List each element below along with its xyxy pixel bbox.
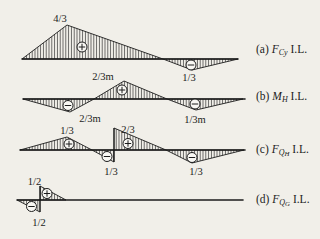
il-region-positive [22, 25, 163, 59]
caption-b-suffix: I.L. [288, 89, 307, 101]
caption-d-prefix: (d) [256, 193, 272, 205]
caption-d: (d) FQG I.L. [256, 193, 310, 208]
caption-b-prefix: (b) [256, 89, 272, 101]
caption-a: (a) FCy I.L. [256, 43, 307, 58]
il-region-negative [23, 99, 94, 112]
caption-a-symbol: F [272, 43, 279, 55]
caption-a-suffix: I.L. [288, 43, 307, 55]
il-region-negative [163, 59, 238, 70]
value-label: 1/3 [60, 125, 73, 136]
caption-b: (b) MH I.L. [256, 89, 307, 104]
caption-b-symbol: M [272, 89, 282, 101]
value-label: 1/2 [32, 217, 45, 228]
caption-c-prefix: (c) [256, 143, 272, 155]
caption-c-symbol: F [272, 143, 279, 155]
caption-a-subscript: Cy [279, 48, 288, 57]
value-label: 1/3 [104, 166, 117, 177]
value-label: 1/3 [189, 166, 202, 177]
diagram-render-root: 4/31/32/3m2/3m1/3m1/32/31/31/31/21/2 [17, 13, 245, 228]
caption-d-suffix: I.L. [290, 193, 309, 205]
influence-lines-figure: 4/31/32/3m2/3m1/3m1/32/31/31/31/21/2 (a)… [0, 0, 320, 239]
value-label: 1/2 [28, 176, 41, 187]
value-label: 2/3 [121, 124, 134, 135]
value-label: 1/3 [182, 72, 195, 83]
il-region-negative [166, 150, 244, 163]
caption-c-suffix: I.L. [289, 143, 308, 155]
il-region-negative [167, 99, 243, 110]
value-label: 2/3m [92, 71, 114, 82]
il-region-positive [94, 81, 167, 99]
il-region-positive [20, 137, 92, 150]
caption-a-prefix: (a) [256, 43, 272, 55]
value-label: 4/3 [53, 13, 66, 24]
value-label: 2/3m [79, 113, 101, 124]
value-label: 1/3m [184, 114, 206, 125]
caption-c: (c) FQH I.L. [256, 143, 309, 158]
